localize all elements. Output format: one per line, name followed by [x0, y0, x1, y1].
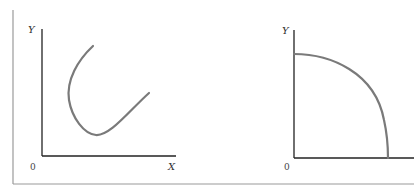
right-curve	[294, 54, 388, 158]
left-origin-label: 0	[30, 162, 36, 172]
right-origin-label: 0	[284, 162, 290, 172]
left-x-label: X	[167, 161, 176, 172]
left-y-label: Y	[28, 24, 36, 35]
left-panel: Y X 0	[28, 24, 176, 172]
left-curve	[69, 46, 149, 135]
right-y-label: Y	[282, 25, 290, 36]
figure: Y X 0 Y 0	[0, 0, 414, 191]
right-panel: Y 0	[282, 25, 414, 172]
